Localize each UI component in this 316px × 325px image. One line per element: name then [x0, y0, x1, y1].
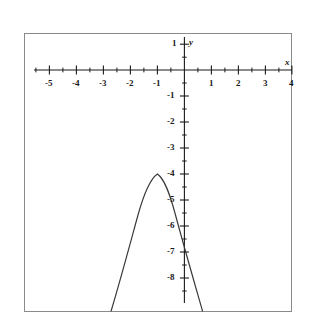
plot-frame [24, 33, 292, 312]
x-tick-label--5: -5 [45, 79, 53, 88]
x-axis-label: x [285, 58, 290, 67]
x-tick-label--1: -1 [153, 79, 161, 88]
y-tick-label--6: -6 [167, 221, 175, 230]
x-tick-label--3: -3 [99, 79, 107, 88]
figure-canvas: -5 -4 -3 -2 -1 1 2 3 4 1 -1 -2 -3 -4 -5 … [0, 0, 316, 325]
y-tick-label--7: -7 [167, 247, 175, 256]
y-tick-label--1: -1 [167, 91, 175, 100]
y-tick-label-1: 1 [172, 39, 177, 48]
y-tick-label--8: -8 [167, 273, 175, 282]
x-tick-label-1: 1 [209, 79, 214, 88]
y-tick-label--4: -4 [167, 169, 175, 178]
x-tick-label-4: 4 [289, 79, 294, 88]
x-tick-label--2: -2 [126, 79, 134, 88]
x-tick-label-3: 3 [263, 79, 268, 88]
y-axis-label: y [189, 38, 193, 47]
y-tick-label--2: -2 [167, 117, 175, 126]
x-tick-label--4: -4 [72, 79, 80, 88]
y-tick-label--5: -5 [167, 195, 175, 204]
x-tick-label-2: 2 [236, 79, 241, 88]
y-tick-label--3: -3 [167, 143, 175, 152]
